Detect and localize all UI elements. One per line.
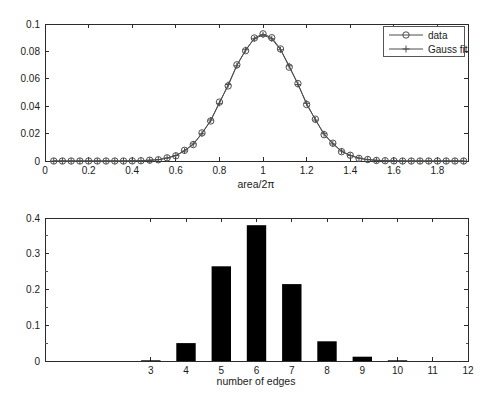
x-tick-label: 0.8 (212, 165, 226, 176)
y-tick-label: 0.3 (26, 248, 40, 259)
y-tick-label: 0.02 (21, 128, 41, 139)
x-tick-label: 8 (324, 365, 330, 376)
histogram-bar (247, 225, 266, 361)
histogram-bar (141, 360, 160, 361)
y-tick-label: 0.1 (26, 19, 40, 30)
y-tick-label: 0.4 (26, 213, 40, 224)
legend-label-data: data (428, 30, 448, 41)
gauss-fit-subplot: 00.20.40.60.811.21.41.61.800.020.040.060… (21, 19, 469, 191)
y-tick-label: 0 (34, 356, 40, 367)
y-tick-label: 0.06 (21, 73, 41, 84)
x-tick-label: 3 (148, 365, 154, 376)
figure-canvas: 00.20.40.60.811.21.41.61.800.020.040.060… (0, 0, 490, 406)
x-tick-label: 1.2 (300, 165, 314, 176)
x-tick-label: 1.8 (431, 165, 445, 176)
top-x-axis-label: area/2π (237, 178, 274, 190)
histogram-bar (176, 343, 195, 361)
x-tick-label: 0.4 (125, 165, 139, 176)
x-tick-label: 0 (42, 165, 48, 176)
fit-point-plus-marker (260, 32, 266, 38)
x-tick-label: 9 (359, 365, 365, 376)
legend-label-gauss-fit: Gauss fit (428, 44, 468, 55)
y-tick-label: 0.04 (21, 101, 41, 112)
legend: data Gauss fit (384, 27, 468, 57)
x-tick-label: 10 (392, 365, 404, 376)
x-tick-label: 0.2 (82, 165, 96, 176)
x-tick-label: 0.6 (169, 165, 183, 176)
x-tick-label: 1 (260, 165, 266, 176)
x-tick-label: 12 (462, 365, 474, 376)
edges-histogram-subplot: 345678910111200.10.20.30.4 number of edg… (26, 213, 474, 388)
fit-point-plus-marker (234, 63, 240, 69)
fit-point-plus-marker (295, 82, 301, 88)
histogram-bar (282, 284, 301, 361)
x-tick-label: 1.6 (387, 165, 401, 176)
x-tick-label: 4 (183, 365, 189, 376)
y-tick-label: 0.08 (21, 46, 41, 57)
y-tick-label: 0 (34, 156, 40, 167)
histogram-bar (317, 341, 336, 361)
bottom-x-axis-label: number of edges (217, 375, 296, 387)
matlab-figure: 00.20.40.60.811.21.41.61.800.020.040.060… (0, 0, 490, 406)
histogram-bar (212, 266, 231, 361)
y-tick-label: 0.2 (26, 284, 40, 295)
fit-point-plus-marker (216, 100, 222, 106)
fit-point-plus-marker (304, 100, 310, 106)
fit-point-plus-marker (208, 117, 214, 123)
x-tick-label: 1.4 (343, 165, 357, 176)
x-tick-label: 11 (428, 365, 439, 376)
histogram-bar (353, 357, 372, 361)
fit-point-plus-marker (225, 82, 231, 88)
histogram-bar (388, 360, 407, 361)
y-tick-label: 0.1 (26, 320, 40, 331)
